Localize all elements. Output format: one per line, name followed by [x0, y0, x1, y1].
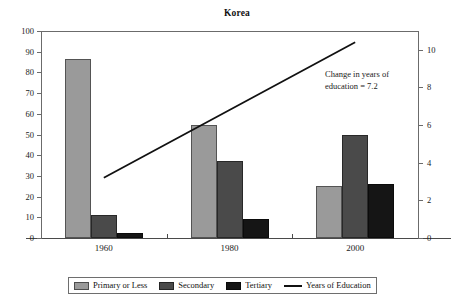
y-axis-right-tick: [418, 50, 423, 51]
y-axis-right-tick-label: 0: [427, 234, 453, 243]
y-axis-left-tick-label: 70: [4, 89, 34, 98]
legend-line-icon: [284, 285, 302, 287]
annotation-line-1: Change in years of: [325, 68, 445, 80]
legend-item-label: Secondary: [178, 281, 214, 290]
x-axis-tick-label: 1960: [74, 243, 134, 253]
chart-legend: Primary or LessSecondaryTertiaryYears of…: [68, 277, 377, 294]
y-axis-right-tick: [418, 238, 423, 239]
x-axis-tick-label: 1980: [200, 243, 260, 253]
y-axis-left-tick-label: 90: [4, 48, 34, 57]
y-axis-left-tick-label: 60: [4, 110, 34, 119]
y-axis-right-tick: [418, 200, 423, 201]
y-axis-right-tick-label: 10: [427, 46, 453, 55]
y-axis-left-tick-label: 50: [4, 131, 34, 140]
chart-title: Korea: [0, 8, 474, 18]
y-axis-left-tick-label: 10: [4, 213, 34, 222]
legend-swatch-icon: [159, 282, 174, 290]
y-axis-right-tick-label: 4: [427, 159, 453, 168]
legend-item: Secondary: [159, 281, 214, 290]
chart-container: Korea 0102030405060708090100 0246810 196…: [0, 0, 474, 305]
y-axis-right: [418, 31, 419, 239]
y-axis-left-tick-label: 40: [4, 151, 34, 160]
legend-item-label: Tertiary: [245, 281, 272, 290]
y-axis-left-tick-label: 0: [4, 234, 34, 243]
y-axis-right-tick-label: 6: [427, 121, 453, 130]
y-axis-left-tick-label: 30: [4, 172, 34, 181]
y-axis-left-tick-label: 80: [4, 68, 34, 77]
legend-item: Primary or Less: [74, 281, 147, 290]
legend-swatch-icon: [226, 282, 241, 290]
y-axis-right-tick-label: 2: [427, 196, 453, 205]
x-axis-tick-label: 2000: [325, 243, 385, 253]
y-axis-left-tick: [37, 238, 42, 239]
y-axis-right-tick: [418, 163, 423, 164]
y-axis-left-tick-label: 100: [4, 27, 34, 36]
legend-item-label: Primary or Less: [93, 281, 147, 290]
y-axis-left-tick-label: 20: [4, 193, 34, 202]
x-axis: [26, 238, 451, 239]
years-of-education-line: [41, 31, 418, 238]
legend-swatch-icon: [74, 282, 89, 290]
y-axis-right-tick: [418, 125, 423, 126]
legend-item: Years of Education: [284, 281, 371, 290]
chart-annotation: Change in years of education = 7.2: [325, 68, 445, 92]
annotation-line-2: education = 7.2: [325, 80, 445, 92]
legend-item-label: Years of Education: [306, 281, 371, 290]
legend-item: Tertiary: [226, 281, 272, 290]
